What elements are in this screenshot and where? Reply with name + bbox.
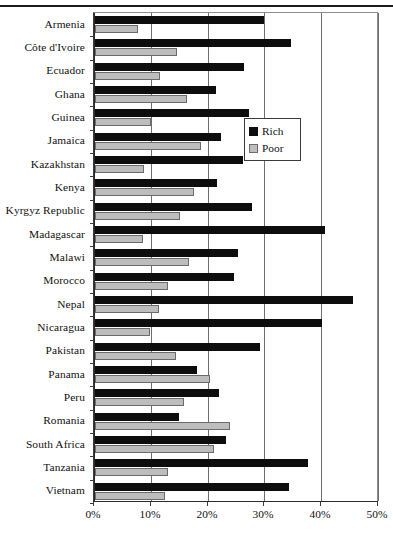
bar-group (95, 200, 377, 223)
category-label: Ghana (55, 88, 85, 100)
bar-group (95, 106, 377, 129)
bar-rich (95, 459, 308, 467)
category-tick-mark (90, 36, 94, 37)
category-label: Malawi (50, 251, 85, 263)
chart-legend: Rich Poor (244, 118, 301, 161)
legend-item-poor: Poor (249, 140, 300, 156)
x-axis-tick-label: 20% (197, 508, 218, 520)
bar-rich (95, 63, 244, 71)
category-tick-mark (90, 433, 94, 434)
bar-group (95, 83, 377, 106)
category-label: Tanzania (43, 461, 85, 473)
category-label: Morocco (43, 274, 85, 286)
bar-rich (95, 86, 216, 94)
bar-group (95, 293, 377, 316)
bar-group (95, 153, 377, 176)
bar-rich (95, 366, 197, 374)
category-axis-labels: ArmeniaCôte d'IvoireEcuadorGhanaGuineaJa… (0, 12, 89, 502)
bar-poor (95, 305, 159, 313)
category-tick-mark (90, 456, 94, 457)
category-label: Romania (43, 414, 85, 426)
bar-rich (95, 483, 289, 491)
x-axis-tick-label: 50% (367, 508, 388, 520)
legend-label-rich: Rich (262, 125, 284, 137)
category-label: Panama (48, 368, 85, 380)
bar-poor (95, 492, 165, 500)
bar-group (95, 410, 377, 433)
bar-rich (95, 16, 264, 24)
bar-rich (95, 413, 179, 421)
bar-group (95, 386, 377, 409)
bar-group (95, 316, 377, 339)
x-axis-tick-label: 40% (310, 508, 331, 520)
x-tick-mark (93, 502, 94, 506)
x-axis-line (93, 501, 378, 502)
category-tick-mark (90, 340, 94, 341)
category-label: Kenya (55, 181, 85, 193)
category-tick-mark (90, 153, 94, 154)
category-tick-mark (90, 410, 94, 411)
category-label: Jamaica (48, 134, 85, 146)
category-label: South Africa (26, 438, 85, 450)
category-tick-mark (90, 83, 94, 84)
bar-poor (95, 375, 210, 383)
category-tick-mark (90, 480, 94, 481)
category-label: Kazakhstan (31, 158, 85, 170)
category-tick-mark (90, 223, 94, 224)
category-label: Guinea (52, 111, 86, 123)
bar-poor (95, 282, 168, 290)
bar-group (95, 36, 377, 59)
category-label: Madagascar (29, 228, 85, 240)
x-axis-tick-label: 10% (140, 508, 161, 520)
category-label: Pakistan (46, 344, 85, 356)
bar-group (95, 270, 377, 293)
bar-poor (95, 258, 189, 266)
bar-rich (95, 179, 217, 187)
bar-rich (95, 109, 249, 117)
category-tick-mark (90, 130, 94, 131)
x-tick-mark (207, 502, 208, 506)
bar-rich (95, 319, 322, 327)
bar-group (95, 480, 377, 503)
bar-rich (95, 226, 325, 234)
x-tick-mark (320, 502, 321, 506)
bar-poor (95, 72, 160, 80)
bar-group (95, 456, 377, 479)
grouped-bar-chart: ArmeniaCôte d'IvoireEcuadorGhanaGuineaJa… (0, 0, 393, 541)
bar-poor (95, 118, 151, 126)
category-label: Peru (64, 391, 85, 403)
category-tick-mark (90, 363, 94, 364)
bar-poor (95, 398, 184, 406)
black-square-icon (249, 127, 258, 136)
bar-poor (95, 212, 180, 220)
gridline-50% (378, 13, 379, 501)
category-label: Nicaragua (37, 321, 85, 333)
bar-group (95, 223, 377, 246)
legend-label-poor: Poor (262, 142, 284, 154)
bar-poor (95, 25, 138, 33)
x-tick-mark (263, 502, 264, 506)
bar-group (95, 246, 377, 269)
bar-poor (95, 48, 177, 56)
bar-poor (95, 328, 150, 336)
category-label: Nepal (57, 298, 85, 310)
x-axis-tick-label: 0% (85, 508, 100, 520)
bar-group (95, 363, 377, 386)
bar-rich (95, 436, 226, 444)
figure-top-rule (0, 5, 393, 7)
bar-group (95, 60, 377, 83)
bar-poor (95, 422, 230, 430)
bar-rich (95, 343, 260, 351)
bar-poor (95, 468, 168, 476)
gray-square-icon (249, 144, 258, 153)
bar-group (95, 340, 377, 363)
bar-rich (95, 39, 291, 47)
bar-rich (95, 249, 238, 257)
category-tick-mark (90, 386, 94, 387)
bar-poor (95, 235, 143, 243)
bar-rich (95, 389, 219, 397)
bar-group (95, 433, 377, 456)
category-label: Armenia (44, 18, 85, 30)
x-tick-mark (377, 502, 378, 506)
bar-rich (95, 273, 234, 281)
